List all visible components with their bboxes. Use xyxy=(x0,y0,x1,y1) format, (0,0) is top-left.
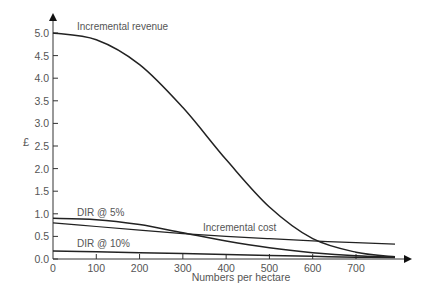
x-tick-label: 100 xyxy=(88,262,106,274)
y-tick-label: 3.5 xyxy=(34,95,49,107)
x-tick-label: 200 xyxy=(131,262,149,274)
y-tick-label: 0.5 xyxy=(34,230,49,242)
y-tick-label: 1.0 xyxy=(34,208,49,220)
x-axis-label: Numbers per hectare xyxy=(192,271,291,283)
y-tick-label: 5.0 xyxy=(34,27,49,39)
y-tick-label: 2.0 xyxy=(34,163,49,175)
label-dir-5: DIR @ 5% xyxy=(77,207,124,218)
series-dir-10 xyxy=(53,251,395,258)
y-tick-label: 1.5 xyxy=(34,185,49,197)
label-dir-10: DIR @ 10% xyxy=(77,238,130,249)
x-tick-label: 300 xyxy=(174,262,192,274)
y-tick-label: 2.5 xyxy=(34,140,49,152)
y-axis-label: £ xyxy=(23,136,29,148)
label-incremental-revenue: Incremental revenue xyxy=(77,21,169,32)
x-tick-label: 0 xyxy=(50,262,56,274)
y-tick-label: 4.0 xyxy=(34,72,49,84)
x-tick-label: 600 xyxy=(304,262,322,274)
y-tick-label: 4.5 xyxy=(34,50,49,62)
chart-svg: 0.00.51.01.52.02.53.03.54.04.55.0 010020… xyxy=(0,0,429,301)
y-tick-label: 3.0 xyxy=(34,117,49,129)
label-incremental-cost: Incremental cost xyxy=(203,222,277,233)
y-tick-label: 0.0 xyxy=(34,253,49,265)
x-tick-label: 700 xyxy=(347,262,365,274)
y-ticks: 0.00.51.01.52.02.53.03.54.04.55.0 xyxy=(34,27,58,265)
chart-container: 0.00.51.01.52.02.53.03.54.04.55.0 010020… xyxy=(0,0,429,301)
